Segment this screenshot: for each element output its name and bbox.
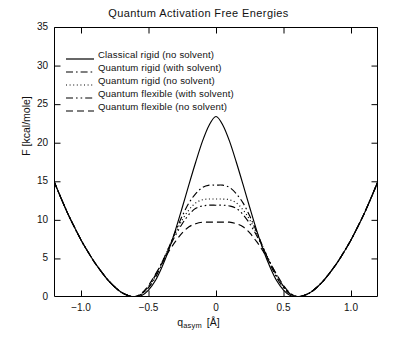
x-axis-title-subscript: asym — [183, 321, 202, 330]
legend-label: Quantum flexible (no solvent) — [98, 101, 227, 112]
legend-line-sample — [66, 50, 94, 60]
legend-item: Quantum flexible (no solvent) — [66, 100, 296, 113]
series-line-4 — [54, 181, 378, 296]
legend-item: Quantum flexible (with solvent) — [66, 87, 296, 100]
legend-line-sample — [66, 63, 94, 73]
legend-line-sample — [66, 76, 94, 86]
x-tick-label: 0.5 — [262, 302, 306, 313]
legend-item: Classical rigid (no solvent) — [66, 48, 296, 61]
legend-label: Quantum rigid (no solvent) — [98, 75, 215, 86]
figure: Quantum Activation Free Energies F [kcal… — [0, 0, 397, 346]
x-tick-label: −1.0 — [59, 302, 103, 313]
x-tick-label: 0 — [194, 302, 238, 313]
y-axis-title: F [kcal/mole] — [20, 66, 32, 186]
legend-item: Quantum rigid (with solvent) — [66, 61, 296, 74]
series-line-3 — [54, 181, 378, 296]
legend: Classical rigid (no solvent)Quantum rigi… — [66, 48, 296, 113]
x-tick-label: −0.5 — [127, 302, 171, 313]
legend-label: Classical rigid (no solvent) — [98, 49, 214, 60]
y-tick-label: 20 — [14, 137, 48, 148]
series-line-1 — [54, 181, 378, 296]
legend-label: Quantum rigid (with solvent) — [98, 62, 222, 73]
y-tick-label: 0 — [14, 291, 48, 302]
y-tick-label: 30 — [14, 60, 48, 71]
y-tick-label: 10 — [14, 214, 48, 225]
y-tick-label: 25 — [14, 98, 48, 109]
series-layer — [54, 116, 378, 297]
x-axis-title-unit: [Å] — [207, 316, 220, 328]
chart-title: Quantum Activation Free Energies — [0, 7, 397, 19]
x-tick-label: 1.0 — [329, 302, 373, 313]
legend-line-sample — [66, 102, 94, 112]
series-line-0 — [54, 116, 378, 297]
series-line-2 — [54, 181, 378, 296]
y-tick-label: 15 — [14, 175, 48, 186]
y-tick-label: 5 — [14, 252, 48, 263]
x-axis-title: qasym[Å] — [0, 316, 397, 330]
legend-item: Quantum rigid (no solvent) — [66, 74, 296, 87]
legend-line-sample — [66, 89, 94, 99]
legend-label: Quantum flexible (with solvent) — [98, 88, 234, 99]
y-tick-label: 35 — [14, 21, 48, 32]
